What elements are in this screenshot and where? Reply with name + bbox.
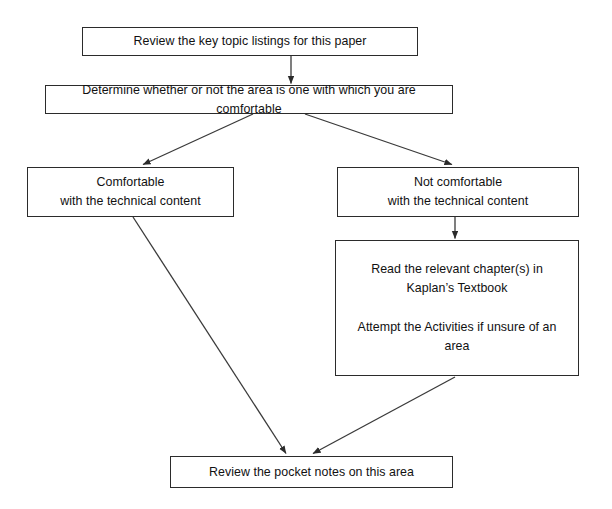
node-comfortable-label: Comfortable with the technical content bbox=[28, 173, 233, 210]
node-review-pocket-notes-label: Review the pocket notes on this area bbox=[171, 463, 452, 482]
node-review-pocket-notes[interactable]: Review the pocket notes on this area bbox=[170, 456, 453, 488]
node-not-comfortable[interactable]: Not comfortable with the technical conte… bbox=[337, 167, 579, 217]
node-review-key-topics[interactable]: Review the key topic listings for this p… bbox=[82, 27, 418, 56]
node-review-key-topics-label: Review the key topic listings for this p… bbox=[83, 32, 417, 51]
node-read-textbook[interactable]: Read the relevant chapter(s) in Kaplan’s… bbox=[335, 240, 579, 376]
node-determine-comfort[interactable]: Determine whether or not the area is one… bbox=[45, 85, 453, 114]
connector-comfortable-to-pocket-notes bbox=[133, 217, 286, 454]
flowchart-canvas: Review the key topic listings for this p… bbox=[0, 0, 612, 509]
node-not-comfortable-label: Not comfortable with the technical conte… bbox=[338, 173, 578, 210]
connector-determine-to-not-comfortable bbox=[305, 114, 452, 165]
node-determine-comfort-label: Determine whether or not the area is one… bbox=[46, 81, 452, 118]
connector-read-textbook-to-pocket-notes bbox=[313, 377, 455, 454]
node-comfortable[interactable]: Comfortable with the technical content bbox=[27, 167, 234, 217]
connector-determine-to-comfortable bbox=[143, 114, 253, 165]
node-read-textbook-label: Read the relevant chapter(s) in Kaplan’s… bbox=[336, 260, 578, 356]
